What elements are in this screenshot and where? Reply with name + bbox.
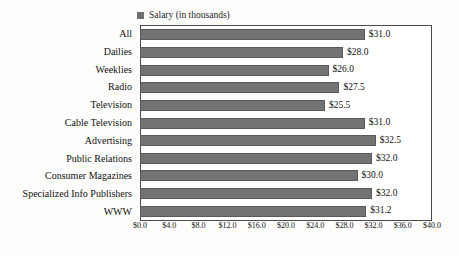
- category-label: Weeklies: [0, 61, 136, 79]
- bar: [140, 65, 329, 76]
- plot-area: $31.0$28.0$26.0$27.5$25.5$31.0$32.5$32.0…: [140, 25, 432, 221]
- category-label: Consumer Magazines: [0, 168, 136, 186]
- bar-row: $32.0: [141, 149, 431, 167]
- x-axis-tick: $20.0: [277, 222, 295, 230]
- bar: [140, 118, 365, 129]
- x-axis-tick: $0.0: [133, 222, 147, 230]
- bar: [140, 188, 372, 199]
- category-axis-labels: AllDailiesWeekliesRadioTelevisionCable T…: [0, 25, 136, 221]
- x-axis-tick-labels: $0.0$4.0$8.0$12.0$16.0$20.0$24.0$28.0$32…: [140, 222, 432, 236]
- bar-row: $32.0: [141, 185, 431, 203]
- bar-row: $25.5: [141, 97, 431, 115]
- category-label: Public Relations: [0, 150, 136, 168]
- category-label: Radio: [0, 78, 136, 96]
- bar-row: $32.5: [141, 132, 431, 150]
- bar-value-label: $31.0: [369, 118, 390, 128]
- category-label: Television: [0, 96, 136, 114]
- bar-row: $30.0: [141, 167, 431, 185]
- x-axis-tick: $24.0: [306, 222, 324, 230]
- category-label: All: [0, 25, 136, 43]
- x-axis-tick: $8.0: [191, 222, 205, 230]
- bar-row: $31.2: [141, 202, 431, 220]
- bar: [140, 135, 376, 146]
- category-label: WWW: [0, 203, 136, 221]
- bar-row: $28.0: [141, 44, 431, 62]
- bar-row: $31.0: [141, 26, 431, 44]
- bar: [140, 153, 372, 164]
- bar-row: $26.0: [141, 61, 431, 79]
- legend-swatch-icon: [137, 12, 144, 19]
- bar-value-label: $31.2: [370, 206, 391, 216]
- x-axis-tick: $32.0: [365, 222, 383, 230]
- bar-value-label: $27.5: [343, 83, 364, 93]
- bar-value-label: $25.5: [329, 101, 350, 111]
- bar-row: $27.5: [141, 79, 431, 97]
- x-axis-tick: $36.0: [394, 222, 412, 230]
- bar: [140, 29, 365, 40]
- category-label: Cable Television: [0, 114, 136, 132]
- category-label: Specialized Info Publishers: [0, 185, 136, 203]
- x-axis-tick: $16.0: [248, 222, 266, 230]
- bar-value-label: $32.0: [376, 189, 397, 199]
- bar-value-label: $28.0: [347, 48, 368, 58]
- bar-value-label: $26.0: [333, 65, 354, 75]
- legend-label: Salary (in thousands): [149, 11, 230, 21]
- bar: [140, 170, 358, 181]
- bar: [140, 82, 339, 93]
- bar: [140, 100, 325, 111]
- bar-value-label: $32.5: [380, 136, 401, 146]
- x-axis-tick: $12.0: [219, 222, 237, 230]
- bar-value-label: $30.0: [362, 171, 383, 181]
- bar-chart: Salary (in thousands) AllDailiesWeeklies…: [0, 0, 459, 256]
- bar: [140, 47, 343, 58]
- bar-value-label: $31.0: [369, 30, 390, 40]
- bar: [140, 206, 366, 217]
- x-axis-tick: $40.0: [423, 222, 441, 230]
- category-label: Advertising: [0, 132, 136, 150]
- x-axis-tick: $28.0: [335, 222, 353, 230]
- bar-row: $31.0: [141, 114, 431, 132]
- bar-value-label: $32.0: [376, 154, 397, 164]
- category-label: Dailies: [0, 43, 136, 61]
- x-axis-tick: $4.0: [162, 222, 176, 230]
- chart-legend: Salary (in thousands): [137, 9, 230, 22]
- bar-rows: $31.0$28.0$26.0$27.5$25.5$31.0$32.5$32.0…: [141, 26, 431, 220]
